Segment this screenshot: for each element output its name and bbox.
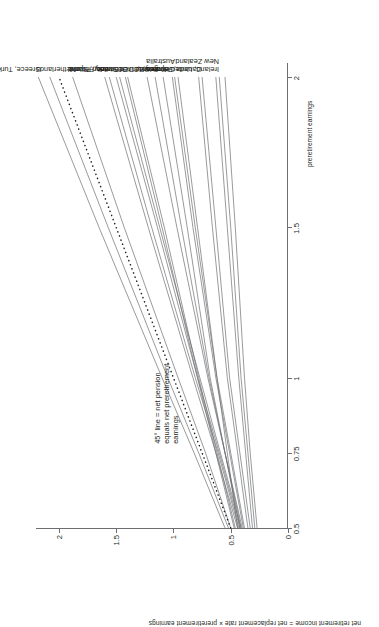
series-line (50, 77, 229, 528)
y-tick-label: 0 (284, 535, 293, 551)
x-tick-label: 1.5 (292, 223, 301, 234)
y-tick-label: 1 (169, 535, 178, 551)
series-end-label: Ireland, United Kingdom, New Zealand (137, 56, 218, 73)
y-tick-mark (173, 529, 174, 533)
x-tick-mark (288, 227, 292, 228)
series-line (219, 77, 255, 528)
y-tick-mark (231, 529, 232, 533)
series-lines (36, 62, 288, 528)
y-axis-title: net retirement income = net replacement … (0, 620, 379, 627)
y-tick-mark (288, 529, 289, 533)
x-tick-label: 1 (292, 377, 301, 381)
x-tick-mark (288, 378, 292, 379)
series-line (175, 77, 245, 528)
x-tick-label: 2 (292, 76, 301, 80)
x-tick-label: 0.75 (292, 446, 301, 461)
reference-line-annotation: 45° line = net pension equals net preret… (153, 364, 180, 444)
y-tick-label: 0.5 (226, 535, 235, 551)
series-line (147, 77, 242, 528)
x-tick-mark (288, 528, 292, 529)
y-axis-title-text: net retirement income = net replacement … (148, 620, 379, 627)
x-tick-mark (288, 453, 292, 454)
x-axis-title: preretirement earnings (306, 101, 313, 167)
y-tick-label: 1.5 (112, 535, 121, 551)
x-tick-label: 0.5 (292, 524, 301, 535)
y-tick-label: 2 (54, 535, 63, 551)
series-line (125, 77, 234, 528)
y-tick-mark (59, 529, 60, 533)
y-tick-mark (116, 529, 117, 533)
series-line (38, 77, 225, 528)
x-tick-mark (288, 77, 292, 78)
plot-area: 45° line = net pension equals net preret… (36, 63, 288, 529)
